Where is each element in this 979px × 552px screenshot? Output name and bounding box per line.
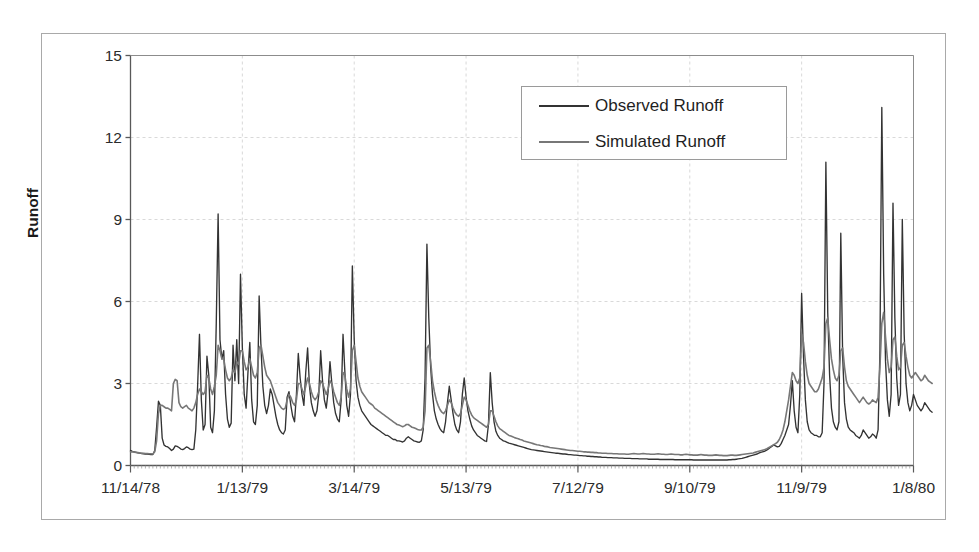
chart-figure: 03691215 11/14/781/13/793/14/795/13/797/… [0,0,979,552]
x-tick-label: 7/12/79 [552,479,604,497]
tick-marks [126,56,914,473]
y-tick-label: 3 [78,375,122,393]
legend-swatch-observed [539,105,589,107]
chart-legend: Observed Runoff Simulated Runoff [521,86,787,160]
plot-area-wrapper [0,0,979,552]
y-tick-label: 9 [78,211,122,229]
legend-item-simulated[interactable]: Simulated Runoff [522,123,786,160]
y-tick-label: 15 [78,47,122,65]
y-tick-label: 0 [78,457,122,475]
x-tick-label: 11/9/79 [776,479,827,497]
y-axis-title: Runoff [24,188,42,238]
series-lines [131,107,933,460]
x-tick-label: 1/8/80 [892,479,935,497]
y-tick-label: 6 [78,293,122,311]
y-tick-label: 12 [78,129,122,147]
x-tick-label: 5/13/79 [440,479,492,497]
legend-label-observed: Observed Runoff [595,96,723,116]
x-tick-label: 9/10/79 [664,479,716,497]
series-line-observed [131,107,933,460]
legend-swatch-simulated [539,141,589,143]
legend-label-simulated: Simulated Runoff [595,132,725,152]
legend-item-observed[interactable]: Observed Runoff [522,87,786,124]
runoff-hydrograph-svg [0,0,979,552]
x-tick-label: 11/14/78 [101,479,160,497]
x-tick-label: 3/14/79 [328,479,380,497]
x-tick-label: 1/13/79 [216,479,268,497]
